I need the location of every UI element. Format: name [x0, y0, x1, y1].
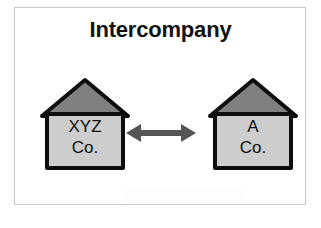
entity-house-xyz-co: XYZ Co. — [40, 76, 130, 172]
bidirectional-arrow-icon — [126, 120, 196, 146]
entity-label-line1: A — [247, 117, 258, 136]
entity-label-line2: Co. — [40, 137, 130, 158]
arrow-svg — [126, 120, 196, 146]
diagram-canvas: Intercompany XYZ Co. A — [0, 0, 321, 228]
entity-label-xyz-co: XYZ Co. — [40, 116, 130, 158]
arrow-shaft — [138, 130, 184, 136]
house-roof-icon — [210, 80, 296, 116]
entity-label-a-co: A Co. — [208, 116, 298, 158]
arrow-head-right — [181, 124, 196, 142]
diagram-title: Intercompany — [0, 17, 321, 43]
entity-label-line2: Co. — [208, 137, 298, 158]
arrow-head-left — [126, 124, 141, 142]
entity-house-a-co: A Co. — [208, 76, 298, 172]
entity-label-line1: XYZ — [68, 117, 101, 136]
house-roof-icon — [42, 80, 128, 116]
scan-artifact — [125, 188, 245, 204]
